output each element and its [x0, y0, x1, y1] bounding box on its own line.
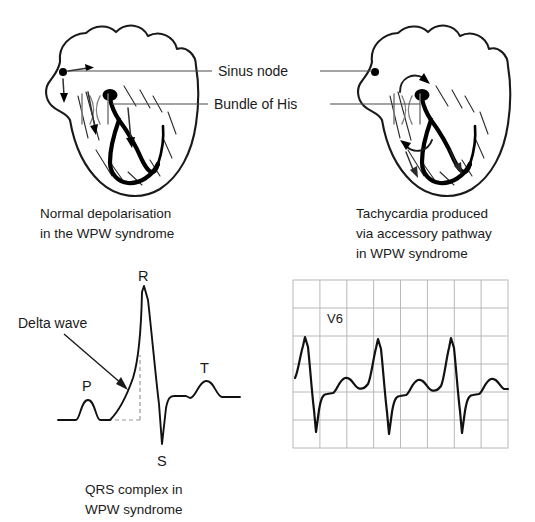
left-heart-panel: [46, 26, 198, 196]
t-wave-label: T: [200, 360, 209, 376]
delta-wave-pointer-line: [64, 334, 122, 384]
qrs-complex-panel: P R S T Delta wave QRS complex in WPW sy…: [18, 268, 240, 517]
right-caption-line-1: Tachycardia produced: [356, 206, 488, 221]
left-sinus-node-dot: [59, 68, 67, 76]
ecg-lead-label: V6: [327, 311, 343, 326]
left-caption-line-2: in the WPW syndrome: [40, 226, 174, 241]
p-wave-label: P: [82, 378, 92, 394]
left-caption-line-1: Normal depolarisation: [40, 206, 171, 221]
bundle-of-his-label: Bundle of His: [214, 96, 297, 112]
right-sinus-node-dot: [371, 68, 379, 76]
qrs-caption-line-1: QRS complex in: [85, 482, 183, 497]
left-heart-caption: Normal depolarisation in the WPW syndrom…: [40, 206, 174, 241]
left-heart-outline: [46, 26, 198, 196]
right-heart-panel: [358, 26, 510, 196]
right-caption-line-3: in WPW syndrome: [356, 246, 468, 261]
right-heart-outline: [358, 26, 510, 196]
right-caption-line-2: via accessory pathway: [356, 226, 492, 241]
s-wave-label: S: [157, 453, 167, 469]
figure-canvas: Sinus node Bundle of His Normal depolari…: [0, 0, 535, 522]
sinus-node-label: Sinus node: [218, 63, 288, 79]
qrs-caption-line-2: WPW syndrome: [85, 502, 183, 517]
right-heart-caption: Tachycardia produced via accessory pathw…: [356, 206, 492, 261]
wpw-syndrome-figure: Sinus node Bundle of His Normal depolari…: [0, 0, 535, 522]
delta-wave-annotation: Delta wave: [18, 315, 87, 331]
r-wave-label: R: [138, 268, 148, 284]
qrs-complex-trace: [58, 286, 240, 444]
delta-wave-arrowhead: [116, 377, 128, 390]
ecg-strip-panel: V6: [293, 280, 508, 448]
